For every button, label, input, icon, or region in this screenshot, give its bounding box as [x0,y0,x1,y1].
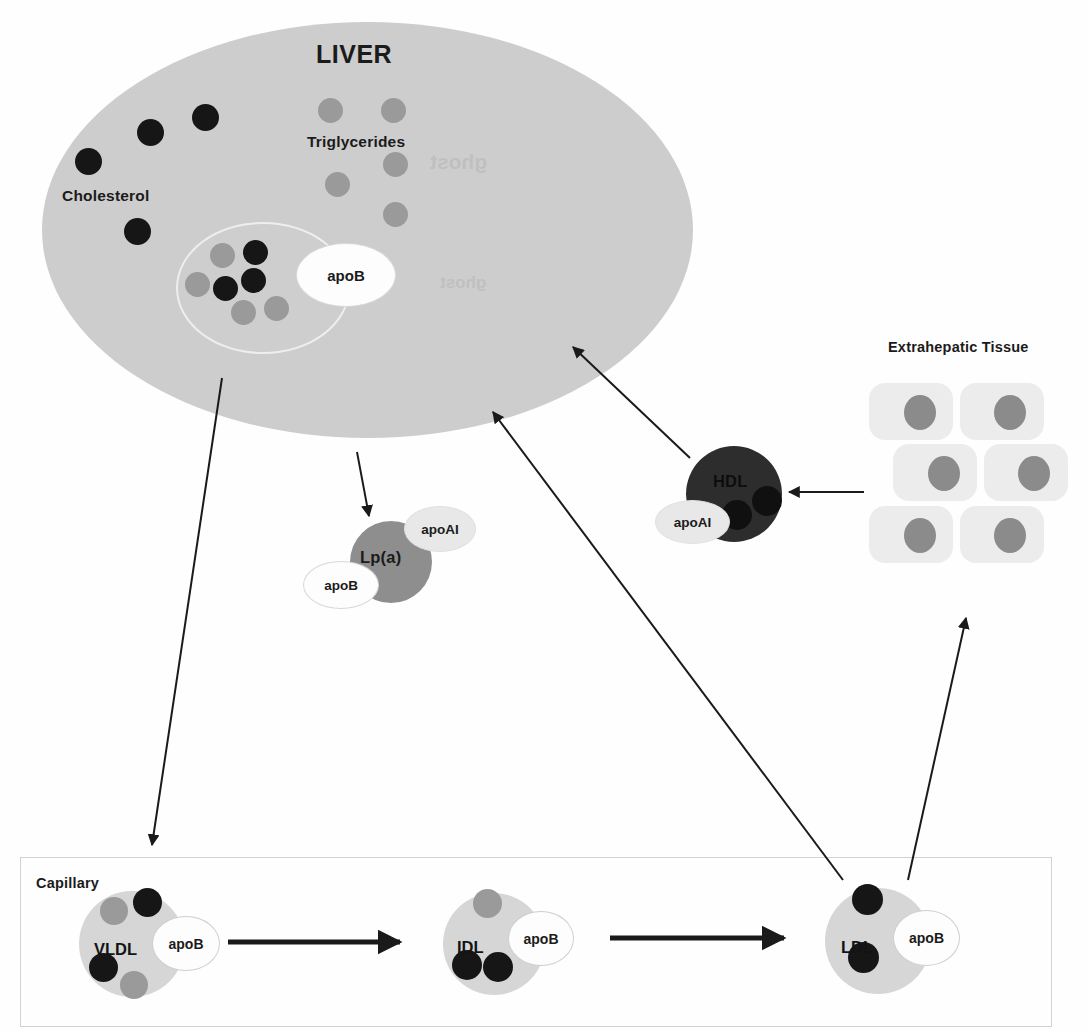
extrahepatic-tissue-title: Extrahepatic Tissue [888,339,1029,355]
page-bleed-artifact-2: ghost [440,273,486,293]
arrow-ldl-to-tissue [908,618,966,880]
triglyceride-dot [325,172,350,197]
lipoprotein-name-ldl: LDL [841,938,873,957]
cholesterol-label: Cholesterol [62,187,149,205]
lipoprotein-lipid-dot [852,884,883,915]
tissue-cell-nucleus [928,456,960,491]
liver-title: LIVER [316,40,392,69]
nascent-vldl-lipid-dot [210,243,235,268]
nascent-vldl-lipid-dot [231,300,256,325]
triglyceride-dot [381,98,406,123]
hdl-apoai-label: apoAI [655,500,730,544]
nascent-vldl-apob-label: apoB [296,243,396,307]
nascent-vldl-lipid-dot [243,240,268,265]
tissue-cell-nucleus [994,395,1026,430]
cholesterol-dot [124,218,151,245]
cholesterol-dot [137,119,164,146]
lpa-apob-label: apoB [303,561,379,609]
lipoprotein-metabolism-diagram: ghost ghost LIVER Cholesterol Triglyceri… [0,0,1089,1031]
lipoprotein-name-vldl: VLDL [94,940,137,959]
capillary-label: Capillary [36,875,99,891]
cholesterol-dot [192,104,219,131]
triglyceride-dot [383,202,408,227]
tissue-cell-nucleus [1018,456,1050,491]
triglycerides-label: Triglycerides [307,133,405,151]
tissue-cell-nucleus [994,518,1026,553]
arrow-liver-to-capillary [152,378,222,845]
apob-label-idl: apoB [508,911,574,966]
lipoprotein-lipid-dot [473,889,502,918]
nascent-vldl-lipid-dot [241,268,266,293]
tissue-cell-nucleus [904,518,936,553]
hdl-cholesterol-dot [752,486,782,516]
cholesterol-dot [75,148,102,175]
nascent-vldl-lipid-dot [185,272,210,297]
lipoprotein-lipid-dot [100,897,128,925]
apob-label-ldl: apoB [893,910,960,966]
apob-label-vldl: apoB [152,916,220,971]
lipoprotein-lipid-dot [483,952,513,982]
nascent-vldl-lipid-dot [264,296,289,321]
arrow-liver-to-lpa [357,452,369,516]
arrow-ldl-to-liver [493,412,843,880]
hdl-core-label: HDL [713,472,748,491]
tissue-cell-nucleus [904,395,936,430]
lpa-core-label: Lp(a) [360,548,401,567]
lipoprotein-lipid-dot [133,888,162,917]
lipoprotein-name-idl: IDL [457,938,484,957]
nascent-vldl-lipid-dot [213,276,238,301]
triglyceride-dot [318,98,343,123]
lpa-apoai-label: apoAI [404,506,476,552]
lipoprotein-lipid-dot [120,971,148,999]
triglyceride-dot [383,152,408,177]
page-bleed-artifact-1: ghost [430,150,487,174]
